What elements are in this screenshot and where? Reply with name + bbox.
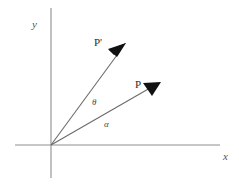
- angle-theta-label: θ: [92, 98, 96, 107]
- x-axis-label: x: [223, 151, 228, 162]
- vector-p-arrowhead: [143, 82, 161, 96]
- vector-rotation-figure: y x P' P θ α: [0, 0, 239, 186]
- vector-p-prime-shaft: [51, 51, 120, 145]
- vector-p-prime-label: P': [94, 37, 102, 48]
- vector-p-shaft: [51, 88, 150, 145]
- angle-alpha-label: α: [104, 120, 109, 129]
- vector-p-prime-arrowhead-fill: [109, 43, 126, 57]
- vector-p-label: P: [135, 79, 141, 90]
- y-axis-label: y: [32, 19, 37, 30]
